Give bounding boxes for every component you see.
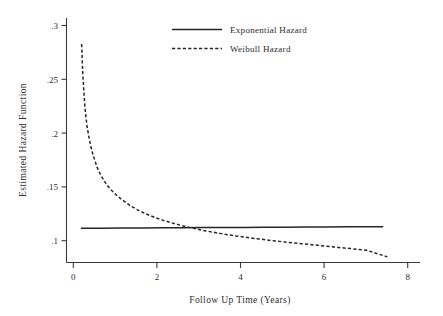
y-tick-label-0: .3	[51, 21, 58, 31]
x-axis-ticks	[73, 263, 407, 269]
x-axis-tick-labels: 0 2 4 6 8	[71, 272, 410, 282]
y-axis-ticks	[62, 26, 67, 241]
x-tick-label-0: 0	[71, 272, 76, 282]
y-tick-label-4: .1	[51, 236, 58, 246]
x-tick-label-1: 2	[155, 272, 160, 282]
x-tick-label-3: 6	[322, 272, 327, 282]
legend-label-exponential-hazard: Exponential Hazard	[230, 25, 307, 35]
chart-legend: Exponential Hazard Weibull Hazard	[172, 25, 307, 54]
y-axis-title: Estimated Hazard Function	[18, 83, 28, 197]
y-tick-label-1: .25	[47, 75, 59, 85]
chart-axes	[67, 18, 421, 263]
y-tick-label-2: .2	[51, 129, 58, 139]
x-tick-label-4: 8	[405, 272, 410, 282]
x-tick-label-2: 4	[238, 272, 243, 282]
chart-series-group	[81, 44, 388, 257]
x-axis-title: Follow Up Time (Years)	[189, 295, 291, 306]
hazard-function-chart-figure: .3 .25 .2 .15 .1 0 2 4 6 8 Follow Up Tim…	[0, 0, 443, 316]
y-axis-tick-labels: .3 .25 .2 .15 .1	[47, 21, 59, 246]
legend-label-weibull-hazard: Weibull Hazard	[230, 44, 291, 54]
y-tick-label-3: .15	[47, 182, 59, 192]
chart-canvas: .3 .25 .2 .15 .1 0 2 4 6 8 Follow Up Tim…	[0, 0, 443, 316]
series-exponential-hazard-line	[81, 227, 383, 229]
series-weibull-hazard-line	[82, 44, 388, 257]
